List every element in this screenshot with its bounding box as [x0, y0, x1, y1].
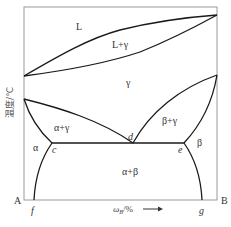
point-label-f: f: [31, 205, 35, 216]
component-label-b: B: [221, 195, 228, 206]
region-label-alpha-gamma: α+γ: [54, 122, 70, 133]
alpha-gamma-boundary-right: [24, 99, 133, 143]
region-label-l: L: [76, 21, 82, 32]
region-label-beta-gamma: β+γ: [162, 115, 178, 126]
beta-solvus-curve: [184, 143, 202, 200]
arrow-right-icon: [143, 207, 163, 212]
region-label-alpha-beta: α+β: [122, 166, 138, 177]
x-axis-label: ωB/%: [113, 204, 134, 215]
beta-gamma-boundary-right: [184, 75, 217, 143]
y-axis-label: 温度/℃: [4, 87, 15, 118]
region-label-alpha: α: [33, 142, 39, 153]
point-label-c: c: [52, 144, 57, 155]
point-label-g: g: [199, 205, 204, 216]
phase-diagram: L L+γ γ α+γ β+γ α β α+β c d e f g A B ωB…: [0, 0, 231, 227]
diagram-frame: [24, 7, 217, 200]
point-label-e: e: [178, 144, 183, 155]
beta-gamma-boundary-left: [133, 75, 217, 143]
component-label-a: A: [14, 195, 22, 206]
region-label-beta: β: [197, 137, 202, 148]
point-label-d: d: [128, 131, 134, 142]
region-label-gamma: γ: [125, 77, 131, 88]
x-axis-label-unit: /%: [123, 204, 134, 214]
region-label-l-gamma: L+γ: [112, 39, 129, 50]
